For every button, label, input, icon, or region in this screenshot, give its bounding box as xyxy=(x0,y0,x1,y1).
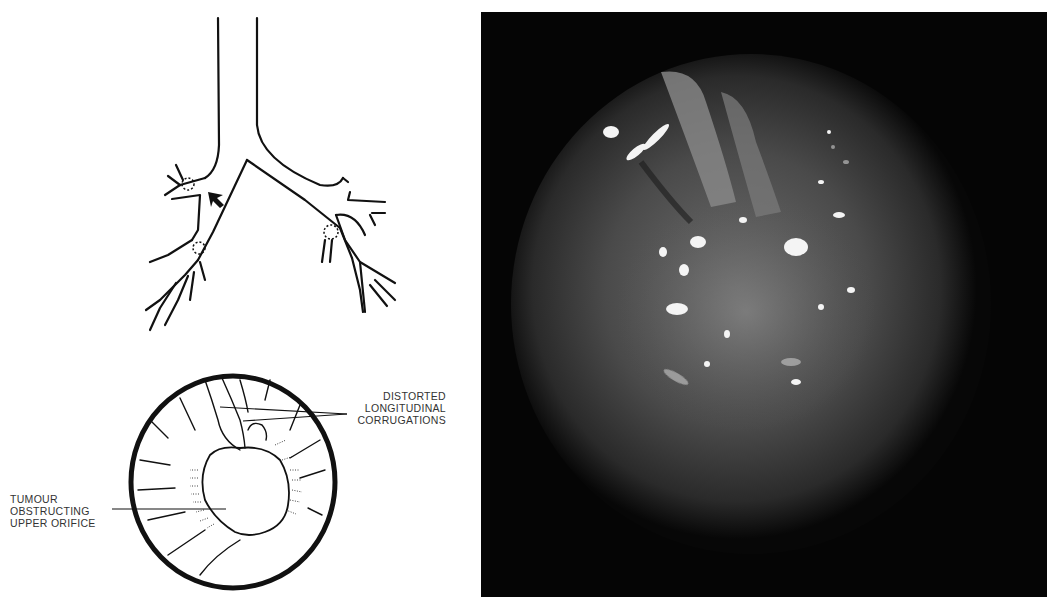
lesion-arrow-icon xyxy=(208,192,224,208)
label-corrugations: DISTORTED LONGITUDINAL CORRUGATIONS xyxy=(320,390,446,426)
bronchoscopy-photo xyxy=(481,12,1047,597)
label-tumour: TUMOUR OBSTRUCTING UPPER ORIFICE xyxy=(10,493,110,529)
